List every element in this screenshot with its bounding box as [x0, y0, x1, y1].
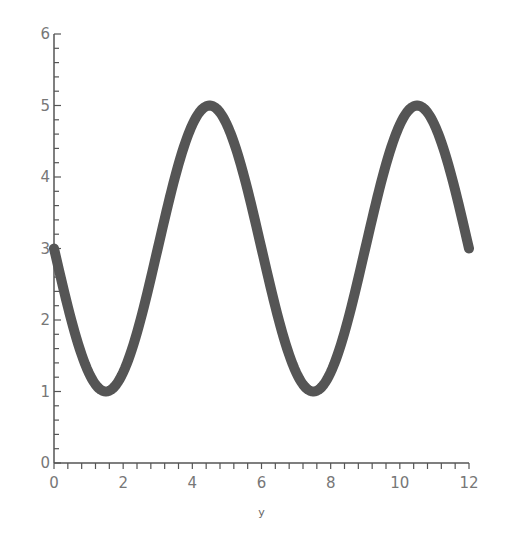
x-tick-label: 0: [49, 474, 59, 492]
y-tick-label: 4: [40, 168, 50, 186]
x-tick-label: 8: [326, 474, 336, 492]
x-tick-label: 6: [257, 474, 267, 492]
x-tick-label: 12: [459, 474, 478, 492]
x-axis: 024681012: [49, 463, 478, 492]
data-series-line: [54, 106, 469, 392]
line-chart: 0123456 024681012 y: [0, 0, 506, 545]
x-tick-label: 4: [188, 474, 198, 492]
y-tick-label: 5: [40, 97, 50, 115]
y-tick-label: 6: [40, 25, 50, 43]
y-tick-label: 2: [40, 311, 50, 329]
x-axis-title: y: [258, 506, 265, 519]
y-tick-label: 0: [40, 454, 50, 472]
y-tick-label: 1: [40, 383, 50, 401]
x-tick-label: 2: [118, 474, 128, 492]
y-tick-label: 3: [40, 240, 50, 258]
x-tick-label: 10: [390, 474, 409, 492]
